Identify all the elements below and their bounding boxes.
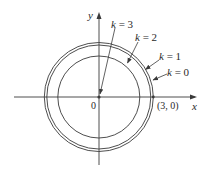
origin-label: 0 [91, 100, 96, 111]
label-k3: k = 3 [111, 18, 134, 30]
label-k1-eq: = 1 [164, 50, 181, 62]
label-k0: k = 0 [167, 66, 190, 78]
leader-k0 [153, 74, 167, 80]
point-3-0 [152, 96, 155, 99]
label-k2: k = 2 [135, 31, 157, 43]
x-axis-arrow-icon [190, 95, 197, 100]
leader-k3 [100, 28, 115, 94]
label-k3-eq: = 3 [116, 18, 134, 30]
y-axis-label: y [87, 9, 93, 21]
diagram-canvas: y x 0 (3, 0) k = 3 k = 2 k = 1 k = 0 [0, 0, 209, 175]
label-k2-eq: = 2 [140, 31, 157, 43]
y-axis-arrow-icon [97, 12, 102, 19]
point-3-0-label: (3, 0) [157, 100, 179, 112]
label-k0-eq: = 0 [172, 66, 190, 78]
origin-point-k3 [97, 95, 100, 98]
leader-k1 [146, 60, 160, 70]
level-curves-figure: y x 0 (3, 0) k = 3 k = 2 k = 1 k = 0 [0, 0, 209, 175]
label-k1: k = 1 [159, 50, 181, 62]
x-axis-label: x [191, 100, 197, 112]
leader-k2 [128, 42, 139, 63]
